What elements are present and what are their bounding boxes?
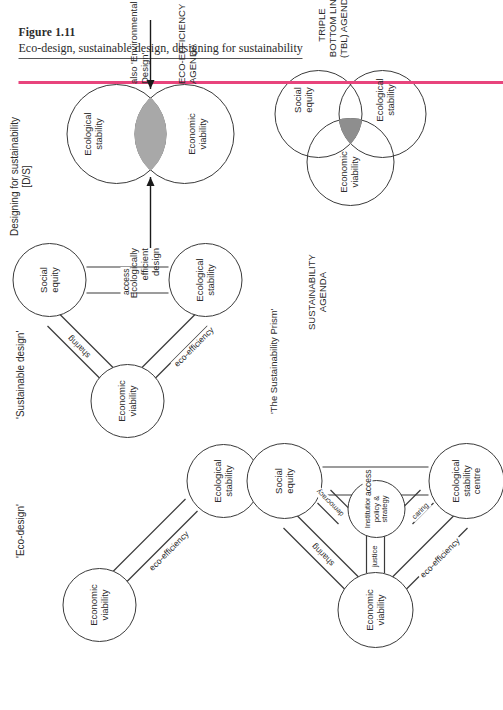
node-ecological-stability-centre-3: Ecological stability centre	[428, 443, 503, 519]
venn-callout-ecologically-efficient-design: Ecologically efficient design	[128, 248, 160, 318]
venn-label-economic-viability-1: Economic viability	[186, 99, 208, 169]
node-label: Social equity	[38, 267, 59, 293]
node-label: Ecological stability centre	[450, 459, 482, 502]
figure-canvas: 'Eco-design' Economic viability Ecologic…	[0, 0, 503, 710]
venn-callout-environmental-design: also 'Environmental Design'	[128, 0, 150, 84]
node-social-equity-2: Social equity	[12, 243, 86, 317]
node-label: Economic viability	[116, 380, 137, 422]
venn-label-economic-viability-2: Economic viability	[338, 140, 360, 204]
edge-label-access-3: access	[362, 468, 372, 498]
venn-label-ecological-stability-2: Ecological stability	[374, 68, 396, 132]
agenda-eco-efficiency: ECO-EFFICIENCY AGENDA	[176, 0, 198, 84]
node-economic-viability-1: Economic viability	[62, 568, 136, 642]
node-social-equity-3: Social equity	[246, 443, 322, 519]
edge-label-justice: justice	[369, 543, 378, 569]
node-label: Social equity	[273, 468, 294, 494]
node-economic-viability-3: Economic viability	[337, 572, 413, 648]
node-institutional-policy-strategy: Institutional policy & strategy	[347, 480, 405, 538]
agenda-triple-bottom-line: TRIPLE BOTTOM LINE (TBL) AGENDA	[316, 0, 348, 60]
node-label: Economic viability	[88, 584, 109, 626]
node-label: Economic viability	[364, 589, 385, 631]
node-label: Ecological stability	[194, 258, 215, 301]
node-economic-viability-2: Economic viability	[90, 364, 164, 438]
node-ecological-stability-2: Ecological stability	[168, 243, 242, 317]
node-label: Ecological stability	[212, 459, 233, 502]
venn-label-ecological-stability-1: Ecological stability	[82, 99, 104, 169]
venn-label-social-equity-2: Social equity	[292, 68, 314, 132]
